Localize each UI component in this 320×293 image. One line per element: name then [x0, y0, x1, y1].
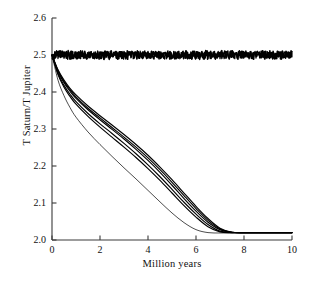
axis-ticks	[52, 18, 292, 240]
data-series-layer	[52, 51, 292, 233]
series-decay-1	[52, 55, 292, 233]
x-tick-label: 2	[87, 244, 113, 255]
series-decay-3	[52, 55, 292, 233]
y-tick-label: 2.1	[12, 197, 46, 208]
x-tick-label: 6	[183, 244, 209, 255]
series-constant-noisy	[52, 51, 292, 60]
x-tick-label: 10	[279, 244, 305, 255]
figure: T Saturn/T Jupiter Million years 2.02.12…	[0, 0, 320, 293]
y-tick-label: 2.2	[12, 160, 46, 171]
series-decay-4	[52, 55, 292, 233]
series-decay-5	[52, 55, 292, 233]
x-axis-label: Million years	[52, 258, 292, 269]
y-tick-label: 2.4	[12, 86, 46, 97]
y-tick-label: 2.3	[12, 123, 46, 134]
x-tick-label: 0	[39, 244, 65, 255]
y-tick-label: 2.6	[12, 12, 46, 23]
y-tick-label: 2.5	[12, 49, 46, 60]
figure-caption	[4, 285, 316, 293]
x-tick-label: 4	[135, 244, 161, 255]
series-decay-fast-thin	[52, 55, 292, 233]
axis-lines	[52, 18, 292, 240]
x-tick-label: 8	[231, 244, 257, 255]
series-decay-2	[52, 55, 292, 233]
